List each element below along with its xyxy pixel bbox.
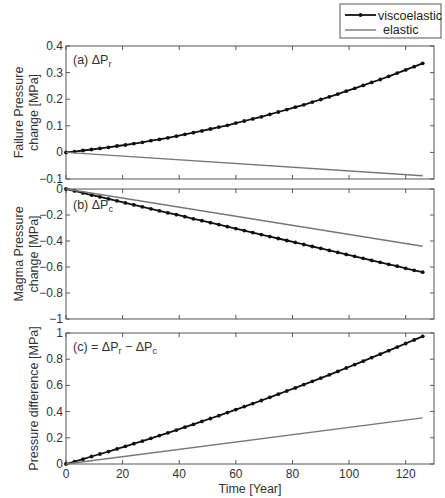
data-marker [251,117,255,121]
data-marker [234,408,238,412]
data-marker [192,422,196,426]
data-marker [404,266,408,270]
data-marker [285,239,289,243]
x-axis-title: Time [Year] [219,482,282,496]
y-tick-label: 0.4 [46,39,63,53]
panel-annotation: (c) = ΔPr​ − ΔPc​ [73,340,157,356]
data-marker [310,245,314,249]
data-marker [293,241,297,245]
series-elastic [66,189,423,246]
y-tick-label: 0 [56,145,63,159]
x-tick-label: 120 [396,467,416,481]
data-marker [149,436,153,440]
data-marker [259,233,263,237]
data-marker [302,383,306,387]
legend-viscoelastic-marker [359,13,363,17]
data-marker [344,89,348,93]
data-marker [361,84,365,88]
data-marker [251,402,255,406]
x-tick-label: 80 [286,467,300,481]
data-marker [319,98,323,102]
data-marker [293,386,297,390]
x-tick-label: 100 [339,467,359,481]
y-tick-label: 0.4 [46,405,63,419]
y-tick-label: 0.2 [46,92,63,106]
data-marker [421,61,425,65]
data-marker [319,247,323,251]
data-marker [344,366,348,370]
data-marker [268,395,272,399]
data-marker [387,349,391,353]
data-marker [200,420,204,424]
axes-box [66,189,434,319]
data-marker [166,211,170,215]
data-marker [107,145,111,149]
data-marker [234,121,238,125]
data-marker [200,219,204,223]
data-marker [141,205,145,209]
data-marker [251,231,255,235]
data-marker [242,229,246,233]
data-marker [132,142,136,146]
data-marker [149,139,153,143]
series-viscoelastic [66,63,423,152]
data-marker [192,217,196,221]
data-marker [319,376,323,380]
data-marker [387,74,391,78]
y-tick-label: 0.6 [46,378,63,392]
data-marker [124,444,128,448]
data-marker [421,270,425,274]
y-tick-label: −1 [49,312,63,326]
data-marker [90,455,94,459]
data-marker [361,359,365,363]
legend-elastic-label: elastic [383,23,418,37]
data-marker [124,201,128,205]
data-marker [421,334,425,338]
y-tick-label: 0.1 [46,119,63,133]
data-marker [132,203,136,207]
data-marker [158,434,162,438]
data-marker [387,262,391,266]
data-marker [98,452,102,456]
data-marker [192,131,196,135]
data-marker [217,414,221,418]
data-marker [226,411,230,415]
data-marker [276,237,280,241]
data-marker [412,65,416,69]
data-marker [370,356,374,360]
data-marker [183,425,187,429]
data-marker [268,235,272,239]
y-tick-label: 1 [56,326,63,340]
panel-c-pressure-difference: 02040608010012000.20.40.60.81Pressure di… [27,326,434,481]
data-marker [183,132,187,136]
data-marker [336,370,340,374]
data-marker [242,405,246,409]
data-marker [200,129,204,133]
data-marker [217,125,221,129]
y-axis-title: Magma Pressure [12,206,26,301]
data-marker [175,134,179,138]
data-marker [404,342,408,346]
data-marker [259,399,263,403]
axes-box [66,46,434,179]
y-tick-label: −0.8 [39,286,63,300]
data-marker [149,207,153,211]
panel-annotation: (a) ΔPr​ [73,53,111,69]
data-marker [132,442,136,446]
data-marker [412,338,416,342]
legend: viscoelastic elastic [340,4,442,38]
data-marker [404,68,408,72]
data-marker [217,223,221,227]
y-tick-label: 0.2 [46,431,63,445]
data-marker [158,138,162,142]
data-marker [183,215,187,219]
data-marker [327,249,331,253]
data-marker [336,92,340,96]
data-marker [285,108,289,112]
series-elastic [66,418,423,464]
data-marker [209,127,213,131]
y-tick-label: −0.6 [39,260,63,274]
y-tick-label: 0 [56,182,63,196]
data-marker [293,105,297,109]
data-marker [310,100,314,104]
